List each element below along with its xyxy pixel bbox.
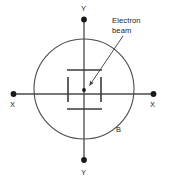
label-y-top: Y — [81, 4, 86, 13]
electron-beam-line-2: beam — [112, 26, 131, 35]
label-electron-beam: Electron beam — [112, 16, 160, 35]
label-y-bottom: Y — [81, 168, 86, 177]
electron-beam-leader-arrow — [90, 36, 124, 86]
electron-beam-line-1: Electron — [112, 16, 141, 25]
y-bottom-terminal-dot — [81, 157, 87, 163]
crt-deflection-diagram: Y Y X X B Electron beam — [0, 0, 169, 185]
label-x-right: X — [150, 100, 155, 109]
label-beam-point-b: B — [116, 125, 121, 134]
electron-beam-spot — [82, 88, 86, 92]
label-x-left: X — [10, 100, 15, 109]
x-right-terminal-dot — [151, 91, 157, 97]
y-top-terminal-dot — [81, 17, 87, 23]
x-left-terminal-dot — [11, 91, 17, 97]
